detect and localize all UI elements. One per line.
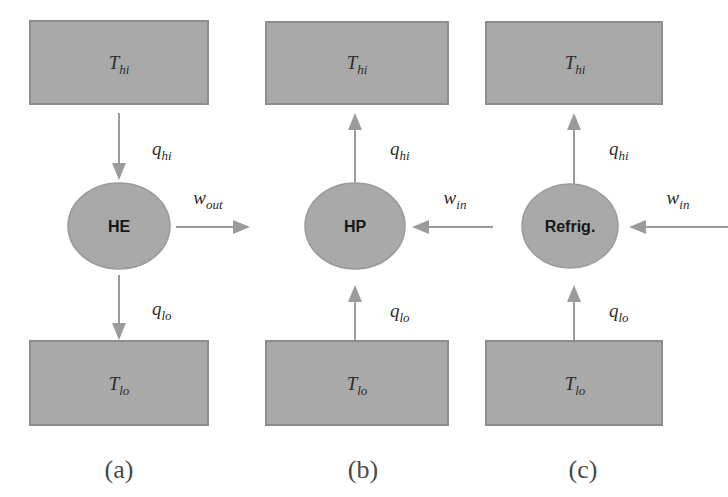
panel-a-heat-lo-arrow bbox=[112, 275, 126, 340]
panel-a-device-label: HE bbox=[108, 218, 131, 235]
panel-c-work-label: win bbox=[667, 187, 690, 212]
panel-b-heat-lo-label: qlo bbox=[390, 300, 410, 325]
panel-c-heat-lo-arrow bbox=[567, 285, 581, 340]
panel-c-heat-hi-arrow bbox=[567, 113, 581, 184]
panel-a: Thi qhi HE wout qlo Tlo (a) bbox=[30, 21, 250, 484]
thermodynamic-cycle-figure: Thi qhi HE wout qlo Tlo (a) bbox=[0, 0, 728, 497]
panel-c-heat-hi-label: qhi bbox=[609, 138, 629, 163]
panel-b-heat-hi-arrow bbox=[348, 113, 362, 182]
panel-c-heat-lo-label: qlo bbox=[609, 300, 629, 325]
panel-a-work-label: wout bbox=[193, 187, 223, 212]
panel-c-work-arrow bbox=[629, 220, 728, 234]
panel-c: Thi qhi Refrig. win qlo Tlo bbox=[486, 22, 728, 484]
panel-a-heat-hi-label: qhi bbox=[152, 138, 172, 163]
panel-a-heat-lo-label: qlo bbox=[152, 298, 172, 323]
panel-b-caption: (b) bbox=[348, 455, 378, 484]
panel-b-heat-hi-label: qhi bbox=[390, 138, 410, 163]
panel-c-caption: (c) bbox=[569, 455, 598, 484]
panel-b-work-label: win bbox=[444, 187, 467, 212]
diagram-canvas: Thi qhi HE wout qlo Tlo (a) bbox=[0, 0, 728, 497]
panel-b-device-label: HP bbox=[344, 218, 367, 235]
panel-b: Thi qhi HP win qlo Tlo (b) bbox=[266, 22, 493, 484]
panel-c-device-label: Refrig. bbox=[545, 218, 596, 235]
panel-b-work-arrow bbox=[412, 220, 493, 234]
panel-a-caption: (a) bbox=[105, 455, 134, 484]
panel-a-work-arrow bbox=[176, 220, 250, 234]
panel-a-heat-hi-arrow bbox=[112, 113, 126, 180]
panel-b-heat-lo-arrow bbox=[348, 285, 362, 340]
